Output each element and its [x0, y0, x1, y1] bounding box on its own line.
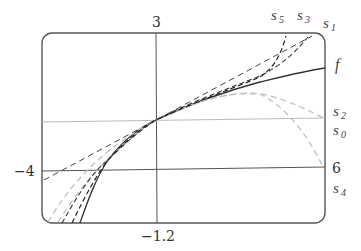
label-s3: s 3 — [297, 7, 310, 25]
svg-text:s: s — [297, 7, 303, 23]
svg-text:s: s — [271, 7, 277, 23]
curve-s4 — [58, 94, 323, 222]
curve-s2 — [48, 93, 324, 222]
curve-s1 — [44, 36, 312, 180]
svg-text:5: 5 — [279, 14, 284, 25]
svg-text:2: 2 — [341, 110, 346, 121]
svg-text:3: 3 — [304, 14, 310, 25]
svg-text:0: 0 — [341, 129, 346, 140]
label-s0: s 0 — [333, 122, 346, 140]
top-tick-label: 3 — [152, 14, 161, 30]
vertical-axis — [156, 33, 157, 223]
label-s2: s 2 — [333, 103, 346, 121]
right-tick-label: 6 — [332, 160, 341, 176]
svg-text:s: s — [333, 103, 339, 119]
curve-s5 — [72, 36, 286, 223]
label-s5: s 5 — [271, 7, 284, 25]
svg-text:4: 4 — [341, 187, 346, 198]
svg-text:1: 1 — [331, 22, 336, 33]
svg-text:f: f — [335, 56, 342, 74]
svg-text:s: s — [323, 15, 329, 31]
bottom-tick-label: −1.2 — [141, 228, 175, 244]
label-s4: s 4 — [333, 180, 346, 198]
left-tick-label: −4 — [14, 163, 35, 179]
curve-s3 — [62, 37, 308, 223]
label-s1: s 1 — [323, 15, 336, 33]
curve-s0 — [42, 118, 325, 122]
svg-text:s: s — [333, 180, 339, 196]
svg-text:s: s — [333, 122, 339, 138]
taylor-approximation-chart: 3 −1.2 −4 6 s 5 s 3 s 1 f s 2 s 0 s 4 — [0, 0, 361, 251]
horizontal-reference-line — [42, 167, 325, 171]
label-f: f — [335, 56, 342, 74]
